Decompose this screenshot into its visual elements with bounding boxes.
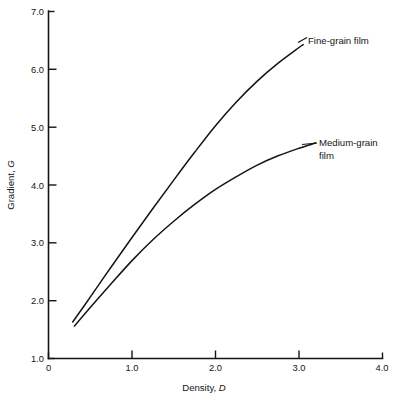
y-tick-label-6: 6.0: [31, 65, 44, 75]
chart-svg: 7.0 6.0 5.0 4.0 3.0 2.0 1.0 0 1.0 2.0 3.…: [0, 0, 398, 403]
x-axis-title-symbol: D: [219, 382, 226, 393]
leader-line-medium-grain: [302, 143, 317, 145]
x-tick-label-3: 3.0: [293, 363, 306, 373]
y-axis: 7.0 6.0 5.0 4.0 3.0 2.0 1.0: [31, 7, 56, 364]
leader-line-fine-grain: [298, 38, 307, 43]
x-axis-title-text: Density,: [182, 382, 219, 393]
y-tick-label-2: 2.0: [31, 296, 44, 306]
series-label-fine-grain-film: Fine-grain film: [308, 35, 369, 46]
series-label-medium-grain-line2: film: [319, 150, 334, 161]
x-tick-label-4: 4.0: [376, 363, 389, 373]
y-axis-title-text: Gradient,: [5, 168, 16, 210]
y-tick-label-3: 3.0: [31, 238, 44, 248]
x-tick-label-1: 1.0: [126, 363, 139, 373]
y-tick-label-4: 4.0: [31, 181, 44, 191]
y-tick-label-7: 7.0: [31, 7, 44, 17]
x-tick-label-0: 0: [46, 363, 51, 373]
series-line-fine-grain-film: [73, 45, 303, 322]
y-tick-label-5: 5.0: [31, 123, 44, 133]
series-line-medium-grain-film: [74, 143, 315, 326]
series-label-medium-grain-line1: Medium-grain: [319, 137, 378, 148]
x-axis: 0 1.0 2.0 3.0 4.0: [46, 351, 389, 374]
x-axis-title: Density, D: [182, 382, 226, 393]
y-axis-title-symbol: G: [5, 160, 16, 168]
y-axis-title: Gradient, G: [5, 160, 16, 210]
x-tick-label-2: 2.0: [209, 363, 222, 373]
chart-figure: 7.0 6.0 5.0 4.0 3.0 2.0 1.0 0 1.0 2.0 3.…: [0, 0, 398, 403]
y-tick-label-1: 1.0: [31, 354, 44, 364]
